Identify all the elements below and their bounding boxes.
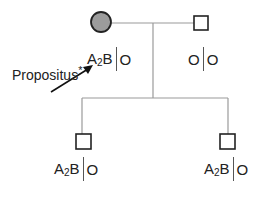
genotype-mother: A2B O [87,47,131,71]
proband-label: Propositus* [12,65,82,82]
male-symbol-father [194,16,208,30]
female-affected-symbol [91,12,111,32]
male-symbol-child1 [76,134,91,149]
genotype-child2: A2B O [204,157,248,181]
genotype-father: O O [188,47,218,71]
genotype-child1: A2B O [54,157,98,181]
male-symbol-child2 [220,134,235,149]
